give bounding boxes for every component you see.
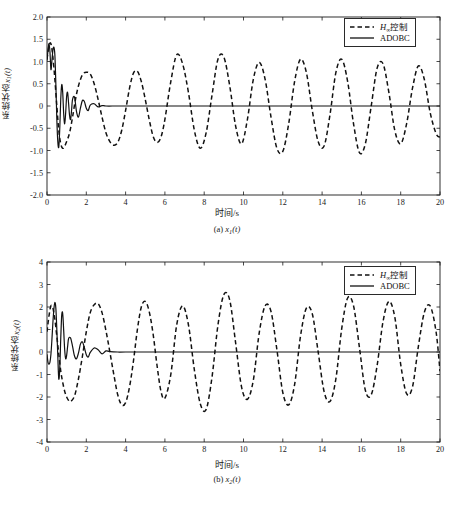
svg-text:-3: -3: [36, 416, 43, 425]
svg-text:-0.5: -0.5: [30, 124, 43, 133]
chart-panel-b: 02468101214161820-4-3-2-101234 系统状态x2(t)…: [0, 250, 454, 506]
x-axis-label-a: 时间/s: [0, 206, 454, 219]
svg-text:4: 4: [124, 445, 128, 454]
svg-text:-4: -4: [36, 438, 43, 447]
svg-text:3: 3: [39, 281, 43, 290]
svg-text:-1.0: -1.0: [30, 147, 43, 156]
svg-text:6: 6: [163, 445, 167, 454]
svg-text:0: 0: [39, 348, 43, 357]
svg-text:16: 16: [357, 445, 365, 454]
legend-item-adobc: ADOBC: [349, 32, 410, 43]
svg-text:0: 0: [45, 445, 49, 454]
svg-text:4: 4: [39, 258, 43, 267]
svg-text:2: 2: [84, 445, 88, 454]
y-axis-label-b: 系统状态x2(t): [12, 320, 21, 371]
svg-text:1.5: 1.5: [33, 35, 43, 44]
legend-label-hinf-control: H∞控制: [380, 268, 408, 281]
dashed-line-icon: [349, 22, 375, 32]
svg-text:18: 18: [397, 445, 405, 454]
svg-text:-2.0: -2.0: [30, 191, 43, 200]
svg-text:20: 20: [436, 445, 444, 454]
svg-text:2: 2: [39, 303, 43, 312]
svg-text:1: 1: [39, 326, 43, 335]
dashed-line-icon: [349, 270, 375, 280]
svg-text:0.5: 0.5: [33, 80, 43, 89]
svg-text:12: 12: [279, 445, 287, 454]
legend-item-hinf-control: H∞控制: [349, 21, 410, 32]
svg-text:10: 10: [239, 445, 247, 454]
legend-item-adobc: ADOBC: [349, 280, 410, 291]
panel-caption-b: (b) x2(t): [0, 474, 454, 485]
svg-text:-2: -2: [36, 393, 43, 402]
solid-line-icon: [349, 281, 375, 291]
legend-label-adobc: ADOBC: [380, 33, 410, 43]
figure-stack: 02468101214161820-2.0-1.5-1.0-0.500.51.0…: [0, 0, 454, 506]
x-axis-label-b: 时间/s: [0, 458, 454, 471]
svg-text:0: 0: [39, 102, 43, 111]
panel-caption-a: (a) x1(t): [0, 224, 454, 235]
svg-text:14: 14: [318, 445, 326, 454]
svg-text:-1.5: -1.5: [30, 169, 43, 178]
legend-label-adobc: ADOBC: [380, 281, 410, 291]
svg-text:1.0: 1.0: [33, 58, 43, 67]
y-axis-label-a: 系统状态x1(t): [3, 68, 12, 119]
svg-text:2.0: 2.0: [33, 13, 43, 22]
solid-line-icon: [349, 33, 375, 43]
legend-b: H∞控制ADOBC: [344, 266, 416, 295]
svg-text:8: 8: [202, 445, 206, 454]
chart-panel-a: 02468101214161820-2.0-1.5-1.0-0.500.51.0…: [0, 0, 454, 250]
legend-item-hinf-control: H∞控制: [349, 269, 410, 280]
legend-a: H∞控制ADOBC: [344, 18, 416, 47]
legend-label-hinf-control: H∞控制: [380, 20, 408, 33]
svg-text:-1: -1: [36, 371, 43, 380]
